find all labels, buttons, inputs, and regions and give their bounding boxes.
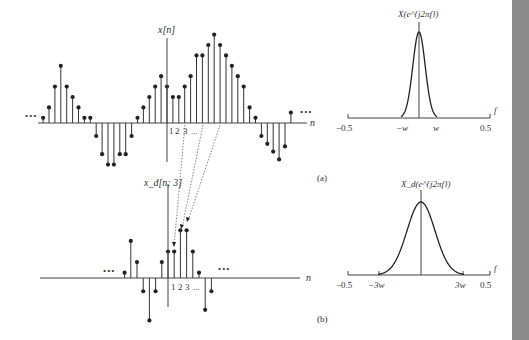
caption-a: (a) bbox=[317, 173, 327, 183]
figure: x[n] n ••• ••• 1 2 3 ... x_d[n; 3] n •••… bbox=[0, 0, 529, 340]
stem-dot bbox=[71, 95, 75, 99]
top-spectrum-ylabel: X(e^{j2πf}) bbox=[397, 9, 439, 19]
stem-dot bbox=[47, 105, 51, 109]
stem-dot bbox=[129, 239, 133, 243]
stem-dot bbox=[236, 74, 240, 78]
stem-dot bbox=[197, 271, 201, 275]
stem-dot bbox=[141, 289, 145, 293]
stem-dot bbox=[185, 228, 189, 232]
top-tick-neg-half: −0.5 bbox=[336, 123, 353, 133]
caption-b: (b) bbox=[317, 314, 328, 324]
bottom-xlabel: n bbox=[306, 272, 311, 283]
stem-dot bbox=[194, 53, 198, 57]
stem-dot bbox=[141, 105, 145, 109]
bottom-ellipsis-left: ••• bbox=[103, 266, 115, 276]
stem-dot bbox=[271, 150, 275, 154]
stem-dot bbox=[88, 116, 92, 120]
stem-dot bbox=[147, 318, 151, 322]
top-xlabel: n bbox=[310, 117, 315, 128]
bottom-tick-1: 1 bbox=[171, 282, 176, 292]
stem-dot bbox=[106, 163, 110, 167]
top-tick-ellipsis: ... bbox=[191, 126, 198, 136]
stem-dot bbox=[160, 260, 164, 264]
stem-dot bbox=[242, 85, 246, 89]
top-ellipsis-right: ••• bbox=[300, 107, 312, 117]
stem-dot bbox=[171, 95, 175, 99]
top-tick-2: 2 bbox=[175, 126, 180, 136]
stem-dot bbox=[283, 144, 287, 148]
top-tick-w: w bbox=[433, 123, 439, 133]
stem-dot bbox=[53, 85, 57, 89]
stem-dot bbox=[59, 64, 63, 68]
bottom-tick-2: 2 bbox=[178, 282, 183, 292]
stem-dot bbox=[130, 134, 134, 138]
stem-dot bbox=[212, 33, 216, 37]
stem-dot bbox=[135, 260, 139, 264]
bottom-tick-3: 3 bbox=[185, 282, 190, 292]
top-spectrum-xlabel: f bbox=[494, 105, 498, 115]
stem-dot bbox=[277, 157, 281, 161]
stem-dot bbox=[183, 85, 187, 89]
stem-dot bbox=[253, 116, 257, 120]
stem-dot bbox=[172, 249, 176, 253]
stem-dot bbox=[65, 85, 69, 89]
stem-dot bbox=[177, 95, 181, 99]
stem-dot bbox=[41, 116, 45, 120]
stem-dot bbox=[82, 116, 86, 120]
bottom-spectrum-ylabel: X_d(e^{j2πf}) bbox=[400, 179, 451, 189]
top-ellipsis-left: ••• bbox=[25, 111, 37, 121]
bottom-ylabel: x_d[n; 3] bbox=[143, 177, 182, 188]
top-tick-half: 0.5 bbox=[480, 123, 492, 133]
top-tick-neg-w: −w bbox=[396, 123, 408, 133]
stem-dot bbox=[94, 134, 98, 138]
stem-dot bbox=[289, 111, 293, 115]
top-spectrum-plot: X(e^{j2πf}) f −0.5 −w w 0.5 bbox=[336, 9, 498, 133]
stem-dot bbox=[209, 289, 213, 293]
stem-dot bbox=[147, 95, 151, 99]
stem-dot bbox=[218, 43, 222, 47]
stem-dot bbox=[112, 163, 116, 167]
page-edge-strip bbox=[512, 0, 529, 340]
stem-dot bbox=[206, 43, 210, 47]
stem-dot bbox=[265, 142, 269, 146]
bottom-ellipsis-right: ••• bbox=[218, 264, 230, 274]
stem-dot bbox=[224, 53, 228, 57]
stem-dot bbox=[259, 134, 263, 138]
stem-dot bbox=[159, 74, 163, 78]
top-tick-1: 1 bbox=[169, 126, 174, 136]
stem-dot bbox=[100, 152, 104, 156]
bottom-tick-half: 0.5 bbox=[480, 280, 492, 290]
stem-dot bbox=[123, 271, 127, 275]
bottom-spectrum-xlabel: f bbox=[494, 263, 498, 273]
stem-dot bbox=[124, 152, 128, 156]
stem-dot bbox=[230, 64, 234, 68]
bottom-tick-ellipsis: ... bbox=[193, 282, 200, 292]
stem-dot bbox=[191, 249, 195, 253]
top-ylabel: x[n] bbox=[157, 24, 175, 35]
bottom-tick-neg-3w: −3w bbox=[368, 280, 385, 290]
bottom-tick-neg-half: −0.5 bbox=[336, 280, 353, 290]
bottom-tick-3w: 3w bbox=[454, 280, 466, 290]
stem-dot bbox=[200, 53, 204, 57]
stem-dot bbox=[189, 74, 193, 78]
stem-dot bbox=[153, 85, 157, 89]
stem-dot bbox=[154, 289, 158, 293]
stem-dot bbox=[248, 105, 252, 109]
stem-dot bbox=[203, 308, 207, 312]
stem-dot bbox=[178, 228, 182, 232]
stem-dot bbox=[76, 105, 80, 109]
stem-dot bbox=[118, 152, 122, 156]
stem-dot bbox=[135, 116, 139, 120]
bottom-spectrum-plot: X_d(e^{j2πf}) f −0.5 −3w 3w 0.5 bbox=[336, 179, 498, 290]
